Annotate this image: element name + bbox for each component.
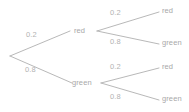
tree-edges-svg: [0, 0, 189, 112]
edge-label-green-green-probability: 0.8: [110, 92, 121, 101]
edge-root-to-green: [10, 56, 72, 83]
node-label-level2-red-red: red: [162, 6, 173, 15]
edge-label-red-green-probability: 0.8: [110, 37, 121, 46]
node-label-level2-green-red: red: [162, 62, 173, 71]
node-label-level2-red-green: green: [162, 38, 182, 47]
probability-tree-diagram: 0.2 0.8 red green 0.2 0.8 0.2 0.8 red gr…: [0, 0, 189, 112]
edge-red-to-red: [97, 12, 159, 31]
node-label-level1-green: green: [72, 78, 92, 87]
node-label-level1-red: red: [74, 26, 85, 35]
edge-label-red-red-probability: 0.2: [110, 8, 121, 17]
edge-label-green-red-probability: 0.2: [110, 62, 121, 71]
edge-red-to-green: [97, 31, 159, 44]
node-label-level2-green-green: green: [162, 94, 182, 103]
edge-label-root-green-probability: 0.8: [25, 65, 36, 74]
edge-root-to-red: [10, 31, 70, 56]
edge-label-root-red-probability: 0.2: [26, 30, 37, 39]
